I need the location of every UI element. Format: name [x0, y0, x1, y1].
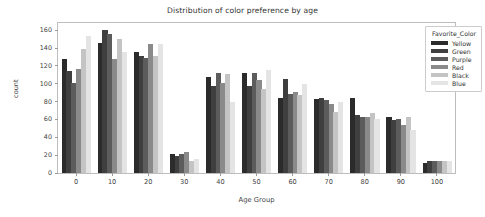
bar-0-blue: [86, 36, 91, 174]
bar-group-40: [206, 23, 235, 173]
bar-90-blue: [410, 130, 415, 173]
bar-group-10: [98, 23, 127, 173]
x-tick-label: 90: [397, 178, 405, 186]
legend: Favorite_Color YellowGreenPurpleRedBlack…: [425, 26, 482, 92]
x-tick-mark: [292, 173, 293, 176]
x-tick-label: 10: [108, 178, 116, 186]
x-tick-mark: [364, 173, 365, 176]
legend-item-label: Blue: [452, 80, 466, 87]
x-tick-label: 70: [324, 178, 332, 186]
bars-plot-area: [58, 23, 455, 173]
legend-swatch-icon: [431, 57, 448, 62]
y-tick-label: 0: [48, 169, 52, 177]
bar-group-90: [386, 23, 415, 173]
legend-item-black[interactable]: Black: [431, 71, 476, 79]
y-tick-label: 160: [40, 26, 52, 34]
bar-60-blue: [302, 84, 307, 173]
y-tick-label: 140: [40, 44, 52, 52]
chart-title: Distribution of color preference by age: [0, 6, 485, 15]
legend-swatch-icon: [431, 73, 448, 78]
bar-10-blue: [122, 52, 127, 173]
legend-item-label: Purple: [452, 56, 472, 63]
legend-item-label: Black: [452, 72, 469, 79]
y-tick-label: 60: [44, 115, 52, 123]
bar-group-50: [242, 23, 271, 173]
x-tick-label: 100: [431, 178, 444, 186]
x-tick-label: 80: [361, 178, 369, 186]
bar-group-70: [314, 23, 343, 173]
x-tick-label: 30: [180, 178, 188, 186]
bar-70-blue: [338, 102, 343, 173]
legend-item-purple[interactable]: Purple: [431, 55, 476, 63]
bar-group-30: [170, 23, 199, 173]
legend-item-green[interactable]: Green: [431, 47, 476, 55]
y-tick-label: 80: [44, 98, 52, 106]
legend-rows: YellowGreenPurpleRedBlackBlue: [431, 39, 476, 87]
legend-swatch-icon: [431, 41, 448, 46]
y-tick-label: 40: [44, 133, 52, 141]
x-tick-mark: [400, 173, 401, 176]
legend-item-red[interactable]: Red: [431, 63, 476, 71]
legend-item-label: Red: [452, 64, 464, 71]
legend-title: Favorite_Color: [432, 30, 476, 37]
x-tick-mark: [436, 173, 437, 176]
y-tick-label: 120: [40, 62, 52, 70]
bar-group-20: [134, 23, 163, 173]
bar-group-0: [62, 23, 91, 173]
x-tick-label: 50: [252, 178, 260, 186]
y-axis-label: count: [12, 79, 20, 98]
y-tick-label: 100: [40, 80, 52, 88]
x-tick-label: 0: [74, 178, 78, 186]
x-tick-label: 60: [288, 178, 296, 186]
x-tick-mark: [256, 173, 257, 176]
legend-item-blue[interactable]: Blue: [431, 79, 476, 87]
bar-50-blue: [266, 70, 271, 173]
x-tick-mark: [112, 173, 113, 176]
legend-swatch-icon: [431, 49, 448, 54]
x-axis-label: Age Group: [57, 196, 456, 204]
legend-item-yellow[interactable]: Yellow: [431, 39, 476, 47]
y-tick-label: 20: [44, 151, 52, 159]
legend-item-label: Yellow: [452, 40, 471, 47]
legend-swatch-icon: [431, 81, 448, 86]
bar-group-80: [350, 23, 379, 173]
bar-group-60: [278, 23, 307, 173]
bar-100-blue: [447, 161, 452, 173]
x-tick-mark: [220, 173, 221, 176]
x-tick-label: 40: [216, 178, 224, 186]
bar-80-blue: [374, 119, 379, 173]
bar-30-blue: [194, 159, 199, 173]
x-tick-mark: [148, 173, 149, 176]
x-tick-mark: [184, 173, 185, 176]
bar-40-blue: [230, 102, 235, 173]
x-tick-mark: [328, 173, 329, 176]
x-tick-label: 20: [144, 178, 152, 186]
legend-swatch-icon: [431, 65, 448, 70]
x-tick-mark: [76, 173, 77, 176]
legend-item-label: Green: [452, 48, 471, 55]
bar-20-blue: [158, 44, 163, 173]
plot-axes: 020406080100120140160 010203040506070809…: [57, 22, 456, 174]
chart-figure: Distribution of color preference by age …: [0, 0, 485, 217]
